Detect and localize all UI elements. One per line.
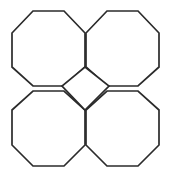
octagon-top-left (12, 11, 85, 86)
octagon-bottom-right (86, 91, 159, 166)
octagon-top-right (86, 11, 159, 86)
tiling-diagram (0, 0, 171, 177)
octagon-bottom-left (12, 91, 85, 166)
figure-canvas: Truncated square tiling fragment (0, 0, 171, 177)
